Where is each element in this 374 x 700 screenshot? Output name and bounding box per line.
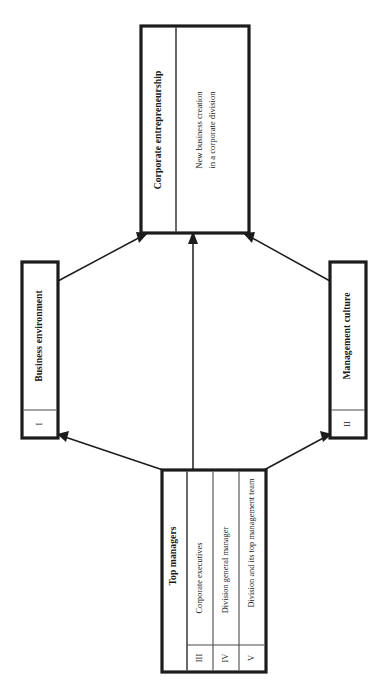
top-managers-row-numeral-1: III [195, 654, 204, 663]
corporate-entrepreneurship-header: Corporate entrepreneurship [152, 71, 163, 190]
arrow-business-environment-to-corporate-entrepreneurship [58, 232, 148, 281]
top-managers-row-numeral-2: IV [221, 654, 230, 663]
diagram-canvas: Corporate entrepreneurship New business … [0, 0, 374, 700]
management-culture-numeral: II [343, 421, 352, 427]
arrow-top-managers-to-management-culture [264, 431, 332, 470]
arrow-top-managers-to-corporate-entrepreneurship [188, 231, 198, 470]
business-environment-numeral: I [35, 422, 44, 425]
top-managers-row-label-1: Corporate executives [195, 543, 204, 614]
business-environment-label: Business environment [33, 289, 44, 381]
management-culture-label: Management culture [341, 292, 352, 380]
top-managers-row-numeral-3: V [247, 655, 256, 661]
node-corporate-entrepreneurship[interactable]: Corporate entrepreneurship New business … [141, 26, 249, 233]
top-managers-row-label-3: Division and its top management team [247, 478, 256, 608]
corporate-entrepreneurship-body-line2: in a corporate division [207, 91, 217, 169]
node-management-culture[interactable]: Management culture II [330, 262, 366, 438]
node-business-environment[interactable]: Business environment I [22, 262, 58, 438]
top-managers-row-label-2: Division general manager [221, 527, 230, 614]
node-top-managers[interactable]: Top managers Corporate executives III Di… [162, 470, 266, 672]
arrow-top-managers-to-business-environment [57, 431, 163, 470]
arrow-management-culture-to-corporate-entrepreneurship [243, 232, 330, 281]
connector-layer [57, 231, 332, 470]
top-managers-header: Top managers [167, 526, 178, 585]
corporate-entrepreneurship-body-line1: New business creation [194, 91, 204, 169]
